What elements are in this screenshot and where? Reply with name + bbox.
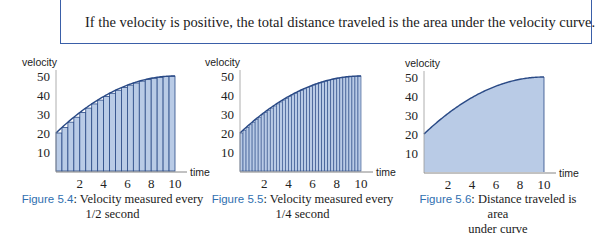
x-tick-label: 10 bbox=[355, 176, 368, 191]
y-tick-label: 10 bbox=[221, 145, 234, 160]
bar bbox=[267, 110, 270, 171]
bar bbox=[346, 77, 349, 171]
bar bbox=[313, 85, 316, 171]
y-tick-label: 40 bbox=[221, 88, 234, 103]
bar bbox=[62, 127, 68, 171]
bar bbox=[127, 85, 133, 171]
x-tick-label: 10 bbox=[169, 176, 182, 191]
bar bbox=[343, 77, 346, 171]
bar bbox=[110, 93, 116, 171]
bar bbox=[301, 90, 304, 171]
bar bbox=[325, 81, 328, 171]
x-tick-label: 2 bbox=[77, 176, 84, 191]
bar bbox=[340, 78, 343, 171]
x-tick-label: 8 bbox=[517, 177, 524, 192]
bar bbox=[294, 93, 297, 171]
figure-label: Figure 5.5 bbox=[212, 193, 264, 205]
x-tick-label: 4 bbox=[469, 177, 476, 192]
y-tick-label: 30 bbox=[37, 107, 50, 122]
bar bbox=[240, 133, 243, 171]
bar bbox=[291, 95, 294, 171]
y-tick-label: 10 bbox=[405, 146, 418, 161]
caption-text-line2: under curve bbox=[468, 222, 527, 236]
bar bbox=[282, 100, 285, 171]
x-tick-label: 8 bbox=[148, 176, 155, 191]
bar bbox=[276, 104, 279, 171]
y-tick-label: 30 bbox=[405, 108, 418, 123]
bar bbox=[98, 100, 104, 171]
bar bbox=[297, 92, 300, 171]
x-tick-label: 2 bbox=[445, 177, 452, 192]
bar bbox=[252, 122, 255, 171]
bar bbox=[80, 112, 86, 171]
x-tick-label: 4 bbox=[100, 176, 107, 191]
bar bbox=[349, 77, 352, 171]
bar bbox=[334, 79, 337, 171]
bar bbox=[310, 86, 313, 171]
bar bbox=[133, 83, 139, 171]
bar bbox=[322, 82, 325, 171]
bar bbox=[163, 77, 169, 171]
x-tick-label: 6 bbox=[309, 176, 316, 191]
y-tick-label: 30 bbox=[221, 107, 234, 122]
bar bbox=[104, 97, 110, 171]
bar bbox=[331, 80, 334, 171]
y-tick-label: 50 bbox=[37, 69, 50, 84]
chart-3: velocitytime1020304050246810 bbox=[405, 57, 579, 192]
x-axis-label: time bbox=[190, 166, 210, 178]
y-tick-label: 20 bbox=[221, 126, 234, 141]
y-axis-label: velocity bbox=[205, 56, 241, 68]
bar bbox=[121, 88, 127, 171]
x-tick-label: 8 bbox=[334, 176, 341, 191]
caption-figure-5-4: Figure 5.4: Velocity measured every 1/2 … bbox=[20, 192, 205, 222]
bar bbox=[264, 112, 267, 171]
bar bbox=[157, 77, 163, 171]
bar bbox=[358, 76, 361, 171]
bar bbox=[352, 76, 355, 171]
caption-figure-5-6: Figure 5.6: Distance traveled is area un… bbox=[408, 192, 588, 236]
bar bbox=[307, 88, 310, 171]
caption-text-line2: 1/4 second bbox=[276, 207, 330, 221]
bar bbox=[279, 102, 282, 171]
bar bbox=[86, 108, 92, 171]
x-tick-label: 6 bbox=[124, 176, 131, 191]
y-tick-label: 50 bbox=[405, 70, 418, 85]
y-tick-label: 20 bbox=[405, 127, 418, 142]
bar bbox=[145, 80, 151, 171]
x-axis-label: time bbox=[376, 166, 396, 178]
x-tick-label: 4 bbox=[285, 176, 292, 191]
bar bbox=[169, 76, 175, 171]
bar bbox=[288, 97, 291, 171]
bar bbox=[261, 115, 264, 171]
y-tick-label: 40 bbox=[37, 88, 50, 103]
caption-text: : Velocity measured every bbox=[73, 192, 203, 206]
bar bbox=[319, 83, 322, 171]
bar bbox=[139, 81, 145, 171]
bar bbox=[243, 130, 246, 171]
bar bbox=[337, 78, 340, 171]
y-axis-label: velocity bbox=[22, 56, 58, 68]
x-axis-label: time bbox=[559, 167, 579, 179]
figure-label: Figure 5.6 bbox=[420, 193, 472, 205]
y-tick-label: 10 bbox=[37, 145, 50, 160]
bar bbox=[151, 78, 157, 171]
bar bbox=[355, 76, 358, 171]
caption-text: : Distance traveled is area bbox=[471, 192, 576, 221]
caption-text: : Velocity measured every bbox=[263, 192, 393, 206]
caption-text-line2: 1/2 second bbox=[86, 207, 140, 221]
y-tick-label: 20 bbox=[37, 126, 50, 141]
x-tick-label: 10 bbox=[538, 177, 551, 192]
y-tick-label: 50 bbox=[221, 69, 234, 84]
bar bbox=[255, 120, 258, 171]
chart-1: velocitytime1020304050246810 bbox=[22, 56, 210, 191]
chart-2: velocitytime1020304050246810 bbox=[205, 56, 396, 191]
bar bbox=[92, 104, 98, 171]
bar bbox=[68, 122, 74, 171]
y-tick-label: 40 bbox=[405, 89, 418, 104]
x-tick-label: 2 bbox=[261, 176, 268, 191]
y-axis-label: velocity bbox=[405, 57, 441, 69]
bar bbox=[316, 84, 319, 171]
bar bbox=[258, 117, 261, 171]
bar bbox=[270, 108, 273, 171]
bar bbox=[285, 98, 288, 171]
